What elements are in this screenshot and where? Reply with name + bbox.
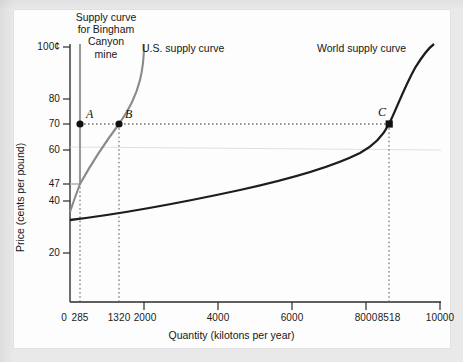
x-tick-label-285: 285 <box>66 312 94 324</box>
point-c-label: C <box>378 106 386 120</box>
y-axis-title: Price (cents per pound) <box>14 143 26 252</box>
y-tick-label-80: 80 <box>16 93 60 105</box>
y-tick-label-100: 100¢ <box>16 41 60 53</box>
bingham-curve-label-line3: Canyon <box>68 35 144 47</box>
x-tick-label-8518: 8518 <box>371 312 407 324</box>
x-tick-label-2000: 2000 <box>127 312 163 324</box>
bingham-curve-label: Supply curve for Bingham Canyon mine <box>68 11 144 60</box>
y-axis-ticks <box>63 47 70 253</box>
us-supply-curve <box>70 44 144 212</box>
bingham-curve-label-line4: mine <box>68 48 144 60</box>
world-supply-curve-label: World supply curve <box>317 42 406 54</box>
figure-root: 100¢ 80 70 60 47 40 20 0 285 1320 2000 4… <box>0 0 463 362</box>
point-b-label: B <box>125 108 132 122</box>
faint-reference-line <box>70 147 441 150</box>
x-tick-label-6000: 6000 <box>274 312 310 324</box>
us-supply-curve-label: U.S. supply curve <box>142 42 224 54</box>
x-axis-ticks <box>144 302 440 310</box>
point-c-marker[interactable] <box>386 120 393 127</box>
point-a-marker[interactable] <box>76 120 83 127</box>
point-a-label: A <box>86 108 93 122</box>
x-tick-label-10000: 10000 <box>420 312 460 324</box>
y-tick-label-70: 70 <box>16 118 60 130</box>
x-tick-label-4000: 4000 <box>200 312 236 324</box>
world-supply-curve <box>70 44 434 220</box>
bingham-curve-label-line2: for Bingham <box>68 23 144 35</box>
bingham-curve-label-line1: Supply curve <box>68 11 144 23</box>
x-axis-title: Quantity (kilotons per year) <box>0 329 463 341</box>
point-b-marker[interactable] <box>115 120 122 127</box>
